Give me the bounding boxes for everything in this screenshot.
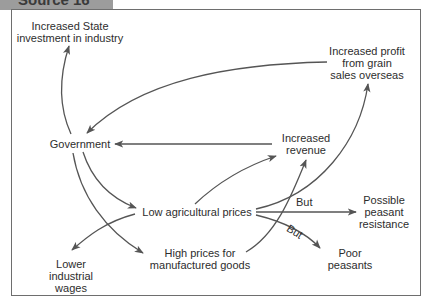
node-poor-peasants: Poor peasants <box>328 247 373 271</box>
node-text-line: manufactured goods <box>150 259 250 271</box>
node-text-line: Increased <box>282 132 330 144</box>
node-text-line: peasant <box>359 206 409 218</box>
node-text-line: Poor <box>328 247 373 259</box>
node-text-line: Government <box>50 138 111 150</box>
node-peasant-resistance: Possible peasant resistance <box>359 194 409 230</box>
node-text-line: Lower <box>49 258 93 270</box>
node-text-line: Possible <box>359 194 409 206</box>
node-lower-industrial-wages: Lower industrial wages <box>49 258 93 294</box>
edge-label-but-resistance: But <box>296 196 313 208</box>
node-text-line: Low agricultural prices <box>142 206 251 218</box>
node-text-line: resistance <box>359 218 409 230</box>
node-text-line: High prices for <box>150 247 250 259</box>
node-government: Government <box>50 138 111 150</box>
edge-gov-to-high-prices <box>73 153 143 253</box>
node-text-line: Increased profit <box>329 45 405 57</box>
node-text-line: from grain <box>329 57 405 69</box>
node-increased-revenue: Increased revenue <box>282 132 330 156</box>
node-text-line: revenue <box>282 144 330 156</box>
node-text-line: industrial <box>49 270 93 282</box>
node-high-manufactured-prices: High prices for manufactured goods <box>150 247 250 271</box>
node-text-line: peasants <box>328 259 373 271</box>
edge-gov-to-state-investment <box>62 46 71 134</box>
edge-low-prices-to-revenue <box>195 156 276 204</box>
node-state-investment: Increased State investment in industry <box>17 20 123 44</box>
edge-grain-profit-to-gov <box>87 62 327 133</box>
edge-gov-to-low-prices <box>83 152 136 208</box>
node-text-line: Increased State <box>17 20 123 32</box>
node-text-line: wages <box>49 282 93 294</box>
node-text-line: sales overseas <box>329 69 405 81</box>
node-grain-profit: Increased profit from grain sales overse… <box>329 45 405 81</box>
node-text-line: investment in industry <box>17 32 123 44</box>
node-low-agricultural-prices: Low agricultural prices <box>142 206 251 218</box>
